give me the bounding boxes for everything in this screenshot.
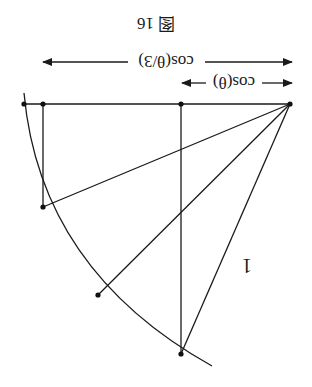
ray-theta-third <box>43 104 290 207</box>
point <box>21 101 26 106</box>
point <box>40 204 45 209</box>
point <box>178 101 183 106</box>
label-cos-theta: cos(θ) <box>213 73 255 92</box>
ray-two-theta-third <box>98 104 290 295</box>
point <box>178 351 183 356</box>
figure-caption: 图 16 <box>137 14 175 33</box>
label-radius-one: 1 <box>242 255 252 277</box>
ray-theta <box>181 104 290 354</box>
label-cos-theta-third: cos(θ/3) <box>138 52 193 71</box>
unit-circle-arc <box>24 93 212 366</box>
geometry-diagram: cos(θ/3) cos(θ) 1 图 16 <box>0 0 312 387</box>
point <box>40 101 45 106</box>
center-point <box>287 101 292 106</box>
point <box>95 292 100 297</box>
